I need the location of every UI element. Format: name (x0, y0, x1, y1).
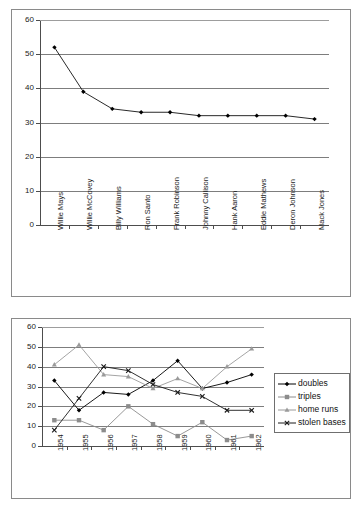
legend-item-label: triples (297, 392, 321, 401)
chart-2-x-tickmark (215, 446, 216, 450)
chart-2-x-axis-label: 1959 (181, 434, 189, 451)
chart-1-x-tickmark (271, 225, 272, 229)
chart-1-x-axis-label: Eddie Mathews (260, 179, 268, 230)
chart-1-x-axis-label: Billy Williams (115, 186, 123, 230)
chart-2-x-axis-label: 1957 (131, 434, 139, 451)
chart-1-x-tickmark (69, 225, 70, 229)
chart-1-x-tickmark (213, 225, 214, 229)
chart-1-x-axis-label: Deron Johnson (289, 179, 297, 230)
chart-1-y-axis-label: 10 (14, 187, 34, 195)
legend-item-label: doubles (297, 379, 328, 388)
chart-2-y-axis-label: 30 (15, 383, 36, 391)
chart-2-x-tickmark (91, 446, 92, 450)
chart-2-legend: doublestripleshome runsstolen bases (274, 373, 350, 433)
legend-item-doubles: doubles (277, 377, 346, 390)
legend-item-label: stolen bases (297, 418, 346, 427)
chart-2-x-axis-label: 1961 (230, 434, 238, 451)
chart-1-x-tickmark (185, 225, 186, 229)
chart-1-x-tickmark (300, 225, 301, 229)
chart-1-x-axis-label: Willie McCovey (86, 179, 94, 230)
chart-2-y-axis-label: 60 (15, 323, 36, 331)
chart-2-x-axis-label: 1962 (255, 434, 263, 451)
chart-2-x-axis-label: 1955 (82, 434, 90, 451)
chart-1-plot-area: 0102030405060Willie MaysWillie McCoveyBi… (40, 20, 329, 225)
chart-1-y-axis-label: 20 (14, 153, 34, 161)
diamond-marker-icon (277, 378, 297, 390)
chart-1-x-axis-label: Hank Aaron (231, 191, 239, 230)
chart-2-x-axis-label: 1960 (205, 434, 213, 451)
figure-page: 0102030405060Willie MaysWillie McCoveyBi… (0, 0, 362, 508)
chart-1-x-tickmark (127, 225, 128, 229)
chart-2-y-axis-label: 0 (15, 442, 36, 450)
legend-item-home-runs: home runs (277, 403, 346, 416)
chart-1-x-axis-label: Mack Jones (318, 190, 326, 230)
chart-2-y-axis-label: 40 (15, 363, 36, 371)
chart-2-y-axis-label: 10 (15, 422, 36, 430)
triangle-marker-icon (277, 404, 297, 416)
chart-2-y-axis-label: 50 (15, 343, 36, 351)
chart-2-y-axis-label: 20 (15, 402, 36, 410)
chart-2-series-group (42, 327, 264, 446)
chart-1-x-axis-label: Willie Mays (57, 192, 65, 230)
chart-2-x-axis-label: 1958 (156, 434, 164, 451)
chart-1-x-axis-label: Johnny Callison (202, 177, 210, 230)
chart-1-x-tickmark (98, 225, 99, 229)
chart-1-x-tickmark (242, 225, 243, 229)
chart-1-y-axis-label: 50 (14, 50, 34, 58)
chart-2-x-tickmark (141, 446, 142, 450)
chart-1-y-axis-label: 30 (14, 119, 34, 127)
chart-2-x-tickmark (116, 446, 117, 450)
chart-1-x-axis-label: Ron Santo (144, 195, 152, 230)
chart-2-x-tickmark (190, 446, 191, 450)
x-marker-icon (277, 417, 297, 429)
chart-1-y-axis-label: 60 (14, 16, 34, 24)
chart-2-x-axis-label: 1954 (57, 434, 65, 451)
chart-panel-bottom: 0102030405060195419551956195719581959196… (11, 318, 351, 499)
legend-item-triples: triples (277, 390, 346, 403)
chart-1-x-tickmark (156, 225, 157, 229)
chart-1-series-doubles (40, 20, 329, 225)
chart-1-y-axis-label: 40 (14, 84, 34, 92)
chart-2-x-axis-label: 1956 (107, 434, 115, 451)
chart-2-x-tickmark (239, 446, 240, 450)
chart-2-plot-area: 0102030405060195419551956195719581959196… (42, 327, 264, 446)
legend-item-label: home runs (297, 405, 338, 414)
square-marker-icon (277, 391, 297, 403)
chart-2-x-tickmark (67, 446, 68, 450)
chart-panel-top: 0102030405060Willie MaysWillie McCoveyBi… (11, 9, 351, 297)
legend-item-stolen-bases: stolen bases (277, 416, 346, 429)
chart-1-x-axis-label: Frank Robinson (173, 177, 181, 230)
chart-2-x-tickmark (165, 446, 166, 450)
chart-1-y-axis-label: 0 (14, 221, 34, 229)
